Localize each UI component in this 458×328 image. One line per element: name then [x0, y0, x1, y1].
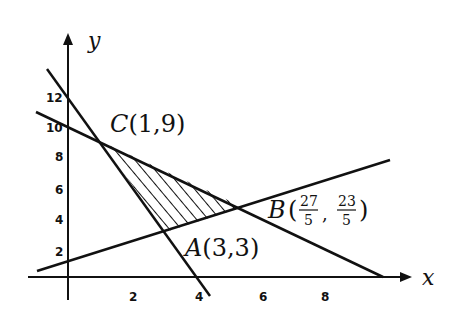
y-tick-10: 10	[46, 121, 63, 135]
point-b-x-numerator: 27	[300, 193, 318, 209]
point-b-open-paren: (	[288, 196, 297, 224]
point-b-y-denominator: 5	[342, 212, 351, 228]
point-a-name: A	[183, 234, 202, 262]
point-b-y-numerator: 23	[338, 193, 356, 209]
x-axis-label: x	[422, 265, 435, 290]
y-tick-6: 6	[55, 183, 63, 197]
point-b-name: B	[267, 196, 286, 224]
point-a-coords: (3,3)	[202, 234, 259, 262]
point-b-x-denominator: 5	[304, 212, 313, 228]
y-tick-12: 12	[46, 91, 63, 105]
x-tick-4: 4	[195, 290, 203, 304]
point-c-name: C	[110, 110, 128, 138]
feasible-region	[102, 142, 243, 232]
lp-diagram: y x 2 4 6 8 2 4 6 8 10 12 C(1,9) A(3,3) …	[0, 0, 458, 328]
point-b-label: B ( 27 5 , 23 5 )	[267, 193, 368, 228]
y-axis-arrow-icon	[63, 33, 73, 45]
y-tick-8: 8	[55, 150, 63, 164]
point-a-label: A(3,3)	[183, 234, 259, 262]
y-tick-2: 2	[55, 245, 63, 259]
x-axis	[28, 272, 412, 282]
x-tick-8: 8	[321, 290, 329, 304]
point-b-comma: ,	[322, 203, 328, 224]
x-tick-6: 6	[259, 290, 267, 304]
svg-text:C(1,9): C(1,9)	[110, 110, 185, 138]
point-c-coords: (1,9)	[128, 110, 185, 138]
x-tick-2: 2	[129, 290, 137, 304]
x-axis-arrow-icon	[400, 272, 412, 282]
point-b-close-paren: )	[359, 196, 368, 224]
y-axis-label: y	[87, 28, 101, 53]
svg-text:A(3,3): A(3,3)	[183, 234, 259, 262]
y-tick-4: 4	[55, 213, 63, 227]
point-c-label: C(1,9)	[110, 110, 185, 138]
